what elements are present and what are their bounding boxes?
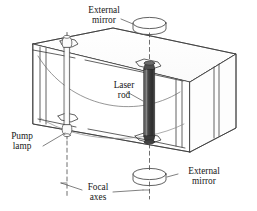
focal-axes-leader-right [113, 190, 143, 192]
label-laser-rod-line1: Laser [114, 80, 136, 90]
label-pump-lamp-line2: lamp [13, 141, 32, 151]
label-laser-rod-line2: rod [118, 90, 131, 100]
laser-cavity-figure: External mirror Laser rod Pump lamp Foca… [0, 0, 257, 211]
leader-external-mirror-top [121, 19, 133, 24]
label-pump-lamp-line1: Pump [11, 131, 33, 141]
label-external-mirror-top-line1: External [88, 5, 120, 15]
focal-axes-leader-left [61, 183, 82, 190]
laser-rod [144, 61, 155, 144]
label-external-mirror-top-line2: mirror [92, 15, 117, 25]
external-mirror-top [133, 17, 166, 34]
label-focal-axes-line1: Focal [88, 182, 109, 192]
label-focal-axes-line2: axes [90, 192, 107, 202]
leader-pump-lamp [43, 133, 65, 146]
label-external-mirror-bottom-line2: mirror [192, 176, 217, 186]
label-external-mirror-bottom-line1: External [188, 166, 220, 176]
leader-external-mirror-bottom [167, 174, 178, 177]
diagram-canvas: External mirror Laser rod Pump lamp Foca… [0, 0, 257, 211]
